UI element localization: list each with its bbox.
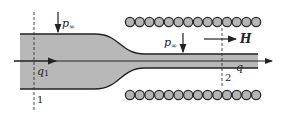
flow-out-label: q bbox=[236, 61, 243, 74]
coil-turn-icon bbox=[222, 90, 231, 99]
section-2-label: 2 bbox=[225, 72, 231, 83]
coil-turn-icon bbox=[193, 17, 202, 26]
coil-turn-icon bbox=[174, 17, 183, 26]
coil-turn-icon bbox=[203, 17, 212, 26]
coil-turn-icon bbox=[252, 90, 261, 99]
coil-turn-icon bbox=[184, 90, 193, 99]
coil-turn-icon bbox=[252, 17, 261, 26]
coil-turn-icon bbox=[145, 90, 154, 99]
field-label: H bbox=[239, 32, 252, 46]
coil-turn-icon bbox=[242, 90, 251, 99]
coil-turn-icon bbox=[232, 90, 241, 99]
section-1-label: 1 bbox=[37, 94, 43, 105]
coil-turn-icon bbox=[213, 90, 222, 99]
coil-turn-icon bbox=[125, 17, 134, 26]
coil-turn-icon bbox=[145, 17, 154, 26]
coil-turn-icon bbox=[155, 17, 164, 26]
coil-turn-icon bbox=[184, 17, 193, 26]
coil-bottom-row bbox=[125, 90, 260, 99]
coil-turn-icon bbox=[135, 17, 144, 26]
coil-turn-icon bbox=[135, 90, 144, 99]
coil-turn-icon bbox=[193, 90, 202, 99]
coil-turn-icon bbox=[203, 90, 212, 99]
coil-turn-icon bbox=[213, 17, 222, 26]
coil-turn-icon bbox=[174, 90, 183, 99]
coil-turn-icon bbox=[232, 17, 241, 26]
coil-top-row bbox=[125, 17, 260, 26]
coil-turn-icon bbox=[125, 90, 134, 99]
coil-turn-icon bbox=[164, 17, 173, 26]
coil-turn-icon bbox=[155, 90, 164, 99]
jet-magnetic-field-diagram: p∞ p∞ H q1 q 1 2 bbox=[0, 0, 285, 120]
coil-turn-icon bbox=[242, 17, 251, 26]
pressure-left-label: p∞ bbox=[62, 17, 75, 31]
coil-turn-icon bbox=[222, 17, 231, 26]
pressure-right-label: p∞ bbox=[164, 36, 177, 50]
coil-turn-icon bbox=[164, 90, 173, 99]
